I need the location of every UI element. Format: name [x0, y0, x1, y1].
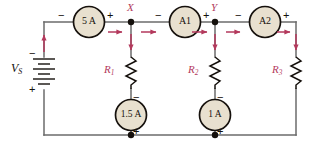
ammeter-1p5a-label: 1.5 A — [110, 110, 152, 120]
ammeter-5a-minus-sign: − — [58, 10, 64, 21]
resistor-r3-label-text: R — [272, 63, 279, 75]
voltage-source-minus-sign: − — [29, 48, 35, 59]
resistor-r3-label: R3 — [272, 64, 282, 77]
ammeter-1a-label: 1 A — [196, 110, 234, 120]
ammeter-a2-plus-sign: + — [283, 10, 289, 21]
ammeter-1a-plus-sign: + — [217, 126, 223, 137]
node-y-label: Y — [211, 2, 217, 13]
voltage-source-label-sub: S — [18, 67, 22, 76]
resistor-r2-symbol — [210, 57, 220, 89]
ammeter-a1-plus-sign: + — [203, 10, 209, 21]
ammeter-a2-minus-sign: − — [235, 10, 241, 21]
voltage-source-label: VS — [11, 62, 22, 76]
junction-node-y-top — [212, 19, 218, 25]
resistor-r2-label-sub: 2 — [195, 69, 199, 77]
ammeter-5a-label: 5 A — [70, 16, 108, 26]
voltage-source-plus-sign: + — [29, 84, 35, 95]
junction-node-x-top — [128, 19, 134, 25]
ammeter-a1-label: A1 — [166, 16, 204, 26]
wire-network — [44, 22, 296, 135]
ammeter-1p5a-minus-sign: − — [133, 92, 139, 103]
ammeter-a1-minus-sign: − — [155, 10, 161, 21]
resistor-r2-label-text: R — [188, 63, 195, 75]
battery-symbol — [33, 59, 55, 84]
node-x-label: X — [127, 2, 134, 13]
resistor-r1-label-text: R — [104, 63, 111, 75]
ammeter-a2-label: A2 — [246, 16, 284, 26]
resistor-r3-symbol — [291, 57, 301, 89]
ammeter-1p5a-plus-sign: + — [133, 126, 139, 137]
resistor-r1-symbol — [126, 57, 136, 89]
circuit-diagram-canvas: VS − + X Y 5 A − + A1 − + A2 − + 1.5 A −… — [0, 0, 318, 151]
ammeter-5a-plus-sign: + — [107, 10, 113, 21]
resistor-r2-label: R2 — [188, 64, 198, 77]
resistor-r1-label-sub: 1 — [111, 69, 115, 77]
ammeter-1a-minus-sign: − — [217, 92, 223, 103]
resistor-r3-label-sub: 3 — [279, 69, 283, 77]
resistor-r1-label: R1 — [104, 64, 114, 77]
